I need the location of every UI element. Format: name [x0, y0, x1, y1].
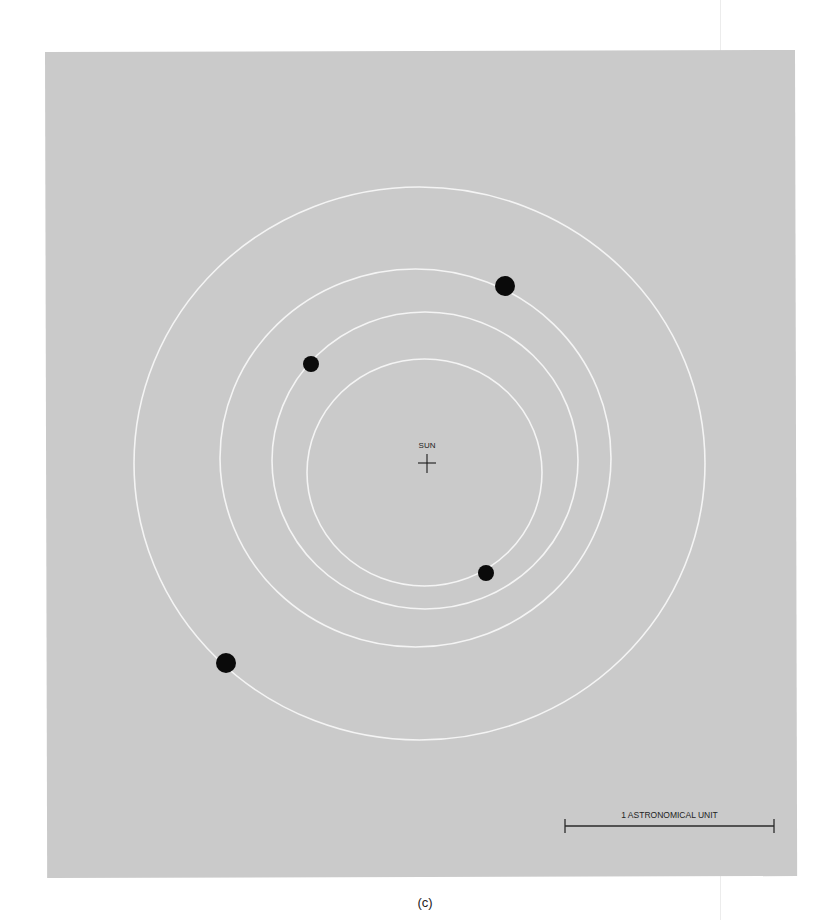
- planet-1: [478, 565, 494, 581]
- planet-4: [216, 653, 236, 673]
- scale-bar-label: 1 ASTRONOMICAL UNIT: [621, 810, 718, 820]
- planets-layer: [216, 276, 515, 673]
- sun-label: SUN: [419, 441, 436, 450]
- planet-2: [303, 356, 319, 372]
- planet-3: [495, 276, 515, 296]
- orbit-1: [307, 359, 542, 586]
- sun-cross-icon: [418, 454, 436, 473]
- figure-caption: (c): [417, 895, 432, 910]
- orbit-diagram: [0, 0, 830, 920]
- orbit-2: [272, 312, 578, 609]
- scale-bar: [565, 819, 774, 833]
- orbit-3: [220, 269, 611, 647]
